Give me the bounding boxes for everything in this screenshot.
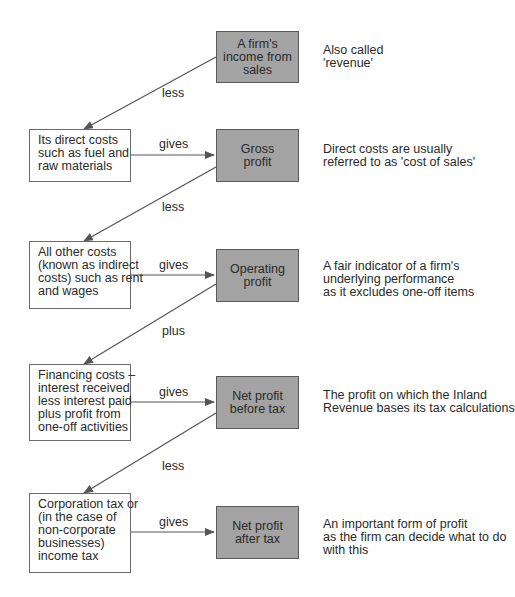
node-text: raw materials	[38, 160, 130, 173]
node-other-costs: All other costs (known as indirect costs…	[29, 241, 131, 309]
note-text: 'revenue'	[323, 57, 383, 70]
node-text: income tax	[38, 550, 130, 563]
note-gross-profit: Direct costs are usually referred to as …	[323, 143, 475, 169]
node-text: Gross	[241, 143, 274, 156]
edge-label-plus: plus	[162, 324, 185, 338]
node-text: one-off activities	[38, 421, 130, 434]
note-text: as it excludes one-off items	[323, 286, 474, 299]
node-direct-costs: Its direct costs such as fuel and raw ma…	[29, 129, 131, 182]
note-net-profit-before-tax: The profit on which the Inland Revenue b…	[323, 389, 515, 415]
node-text: and wages	[38, 285, 130, 298]
node-tax: Corporation tax or (in the case of non-c…	[29, 493, 131, 573]
note-text: with this	[323, 544, 506, 557]
node-operating-profit: Operating profit	[216, 249, 299, 302]
node-income: A firm's income from sales	[216, 31, 299, 83]
note-text: referred to as 'cost of sales'	[323, 156, 475, 169]
node-text: profit	[241, 156, 274, 169]
node-net-profit-after-tax: Net profit after tax	[216, 506, 299, 559]
node-text: after tax	[232, 533, 283, 546]
node-text: sales	[223, 64, 292, 77]
node-text: Net profit	[232, 520, 283, 533]
edge-label-less-1: less	[162, 86, 184, 100]
node-text: A firm's	[223, 38, 292, 51]
node-text: Net profit	[230, 390, 286, 403]
note-income: Also called 'revenue'	[323, 44, 383, 70]
node-text: before tax	[230, 403, 286, 416]
edge-label-gives-4: gives	[159, 515, 188, 529]
note-net-profit-after-tax: An important form of profit as the firm …	[323, 518, 506, 557]
note-text: Revenue bases its tax calculations	[323, 402, 515, 415]
edge-label-gives-2: gives	[159, 258, 188, 272]
node-financing: Financing costs – interest received less…	[29, 364, 131, 441]
edge-label-gives-1: gives	[159, 137, 188, 151]
edge-label-gives-3: gives	[159, 385, 188, 399]
edge-label-less-2: less	[162, 200, 184, 214]
edge-label-less-3: less	[162, 459, 184, 473]
node-net-profit-before-tax: Net profit before tax	[216, 376, 299, 429]
note-operating-profit: A fair indicator of a firm's underlying …	[323, 260, 474, 299]
node-gross-profit: Gross profit	[216, 129, 299, 182]
node-text: Operating	[230, 263, 285, 276]
node-text: profit	[230, 276, 285, 289]
node-text: income from	[223, 51, 292, 64]
